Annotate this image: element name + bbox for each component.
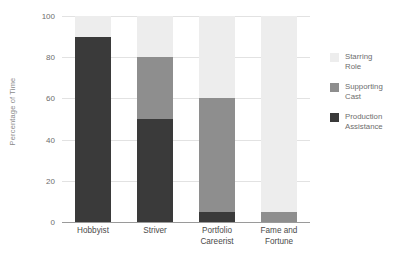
legend-item[interactable]: Starring Role	[330, 52, 412, 71]
bar-segment[interactable]	[199, 16, 235, 98]
legend-label: Starring Role	[345, 52, 372, 71]
legend-item[interactable]: Supporting Cast	[330, 82, 412, 101]
x-tick-label-line: Fortune	[241, 237, 317, 248]
bar-segment[interactable]	[137, 16, 173, 57]
bar-segment[interactable]	[199, 212, 235, 222]
bar-segment[interactable]	[137, 119, 173, 222]
legend-swatch-icon	[330, 83, 339, 92]
y-tick-label: 40	[46, 135, 55, 144]
bar-segment[interactable]	[199, 98, 235, 211]
legend-item[interactable]: Production Assistance	[330, 112, 412, 131]
bar-column[interactable]	[199, 16, 235, 222]
x-axis-baseline	[62, 222, 310, 223]
legend-swatch-icon	[330, 53, 339, 62]
bar-column[interactable]	[75, 16, 111, 222]
legend-label: Supporting Cast	[345, 82, 383, 101]
x-tick-label: Fame andFortune	[241, 226, 317, 247]
bars-layer	[62, 16, 310, 222]
legend-swatch-icon	[330, 113, 339, 122]
bar-segment[interactable]	[75, 16, 111, 37]
y-tick-label: 60	[46, 94, 55, 103]
bar-column[interactable]	[261, 16, 297, 222]
bar-segment[interactable]	[261, 212, 297, 222]
y-axis-title: Percentage of Time	[6, 0, 20, 222]
y-axis-title-text: Percentage of Time	[9, 77, 18, 145]
stacked-bar-chart: Percentage of Time 020406080100 Hobbyist…	[0, 0, 413, 273]
y-tick-label: 20	[46, 176, 55, 185]
plot-area: 020406080100	[62, 16, 310, 222]
y-tick-label: 80	[46, 53, 55, 62]
chart-legend: Starring RoleSupporting CastProduction A…	[330, 52, 412, 143]
bar-segment[interactable]	[75, 37, 111, 222]
y-tick-label: 100	[42, 12, 55, 21]
x-tick-label-line: Fame and	[241, 226, 317, 237]
bar-column[interactable]	[137, 16, 173, 222]
bar-segment[interactable]	[261, 16, 297, 212]
bar-segment[interactable]	[137, 57, 173, 119]
legend-label: Production Assistance	[345, 112, 383, 131]
